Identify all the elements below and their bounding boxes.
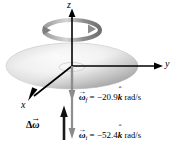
omega-initial-value: −52.4	[97, 130, 118, 140]
y-axis-label: y	[165, 59, 169, 69]
hat-accent-icon: ˆ	[118, 87, 123, 95]
delta-omega-arrow	[60, 106, 68, 141]
omega-final-equals: =	[90, 92, 95, 102]
vector-arrow-icon: →	[78, 126, 85, 134]
omega-initial-symbol: →ω	[79, 131, 86, 140]
delta-omega-label: Δ→ω	[26, 120, 40, 130]
omega-initial-units: rad/s	[124, 130, 141, 140]
physics-figure: z y x →ωf = −20.9ˆk rad/s →ωi = −52.4ˆk …	[0, 0, 179, 161]
hat-accent-icon: ˆ	[118, 125, 123, 133]
omega-final-value: −20.9	[97, 92, 118, 102]
omega-final-units: rad/s	[124, 92, 141, 102]
omega-initial-label: →ωi = −52.4ˆk rad/s	[79, 131, 141, 142]
vector-arrow-icon: →	[78, 88, 85, 96]
x-axis-label: x	[21, 100, 25, 110]
delta-omega-vector-symbol: →ω	[32, 120, 39, 130]
z-axis-label: z	[67, 0, 71, 10]
k-hat-symbol: ˆk	[118, 93, 123, 102]
omega-final-symbol: →ω	[79, 93, 86, 102]
vector-arrow-icon: →	[31, 114, 39, 123]
k-hat-symbol: ˆk	[118, 131, 123, 140]
omega-initial-equals: =	[90, 130, 95, 140]
omega-final-label: →ωf = −20.9ˆk rad/s	[79, 93, 141, 104]
